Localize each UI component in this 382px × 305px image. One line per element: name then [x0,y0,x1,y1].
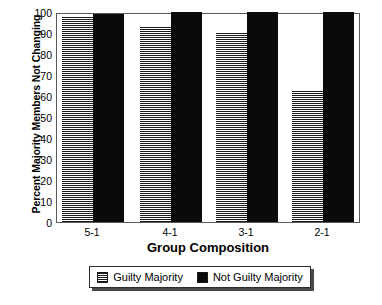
y-tick-label: 100 [34,7,52,19]
y-tick-label: 30 [40,154,52,166]
bar-4-1-guilty [140,27,171,222]
x-axis-title: Group Composition [56,240,360,255]
legend-label: Guilty Majority [113,271,183,283]
x-tick-label: 4-1 [162,226,177,238]
bar-2-1-guilty [292,90,323,222]
bar-chart-figure: Percent Majority Members Not Changing 10… [0,0,382,305]
bar-5-1-not-guilty [93,14,124,222]
bar-4-1-not-guilty [171,12,202,222]
y-axis-tick-labels: 1009080706050403020100 [20,13,52,223]
y-tick-label: 70 [40,70,52,82]
bar-group [285,14,361,222]
x-tick-label: 5-1 [84,226,99,238]
y-tick-label: 0 [46,217,52,229]
y-tick-label: 10 [40,196,52,208]
y-tick-label: 40 [40,133,52,145]
legend-entry-guilty-majority: Guilty Majority [97,271,183,283]
bar-2-1-not-guilty [323,12,354,222]
y-tick-label: 60 [40,91,52,103]
bar-3-1-guilty [216,33,247,222]
legend-swatch-icon [97,272,108,283]
y-tick-label: 80 [40,49,52,61]
y-tick-label: 20 [40,175,52,187]
y-tick-label: 90 [40,28,52,40]
bar-group [57,14,133,222]
bar-5-1-guilty [62,16,93,222]
bar-3-1-not-guilty [247,12,278,222]
y-tick-label: 50 [40,112,52,124]
plot-area [56,13,360,223]
legend-entry-not-guilty-majority: Not Guilty Majority [197,271,303,283]
x-tick-label: 3-1 [238,226,253,238]
bar-group [133,14,209,222]
legend-label: Not Guilty Majority [213,271,303,283]
chart-legend: Guilty MajorityNot Guilty Majority [89,266,311,288]
x-tick-label: 2-1 [314,226,329,238]
bar-series-container [57,14,359,222]
legend-swatch-icon [197,272,208,283]
bar-group [209,14,285,222]
